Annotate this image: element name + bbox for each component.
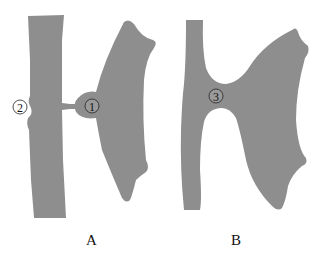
panel-b-graphic: 3 (181, 20, 309, 210)
panel-a-label: A (86, 232, 97, 249)
panel-b-fused-cell (181, 20, 309, 210)
marker-1-label: 1 (89, 100, 95, 114)
panel-b-label: B (231, 232, 241, 249)
marker-2-label: 2 (17, 101, 23, 115)
diagram-canvas: 1 2 3 (0, 0, 325, 258)
marker-3-label: 3 (213, 90, 219, 104)
panel-a-graphic: 1 2 (13, 15, 156, 218)
panel-a-left-cell (27, 15, 70, 218)
panel-a-bridge (62, 104, 76, 109)
